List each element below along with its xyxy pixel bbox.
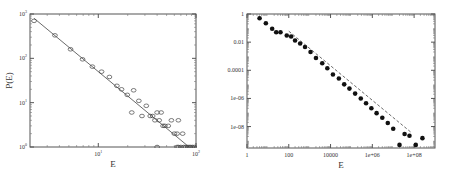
x-axis-label: E [110,159,116,169]
data-point [314,56,319,61]
y-tick-label: 1 [241,11,244,17]
data-point [264,21,269,26]
x-tick-label: 1e+06 [365,152,380,158]
x-axis-label: E [338,160,344,170]
data-point [380,116,385,121]
data-point [257,16,262,21]
y-tick-label: 102 [19,53,27,61]
data-point [397,143,402,148]
data-point [278,30,283,35]
data-point [337,76,342,81]
data-point [169,119,174,123]
x-tick-label: 100 [284,152,293,158]
data-point [347,86,352,91]
data-point [136,99,141,103]
data-point [166,124,171,128]
x-tick-label: 102 [192,149,200,157]
data-point [385,121,390,126]
data-point [420,136,425,141]
y-tick-label: 103 [19,9,27,17]
data-point [320,61,325,66]
y-tick-label: 1e-06 [230,95,244,101]
data-point [407,134,412,139]
minor-ticks [30,14,196,147]
data-point [270,26,275,31]
data-point [131,89,136,93]
data-point [342,82,347,87]
x-tick-label: 101 [94,149,102,157]
data-point [413,143,418,148]
data-point [364,101,369,106]
x-tick-label: 10000 [323,152,338,158]
plot-frame [30,14,196,147]
y-tick-label: 0.01 [234,39,245,45]
x-tick-label: 1 [246,152,249,158]
y-tick-label: 101 [19,98,27,106]
right-chart-plot: 1100100001e+061e+0810.010.00011e-061e-08… [225,0,450,173]
data-points [32,19,197,149]
left-chart: 101102100101102103EP(E) [0,0,225,173]
left-chart-plot: 101102100101102103EP(E) [0,0,225,173]
y-axis-label: P(E) [4,72,14,89]
data-point [144,104,149,108]
data-point [353,91,358,96]
data-point [176,119,181,123]
data-point [107,75,112,79]
data-point [129,111,134,115]
data-point [369,106,374,111]
data-point [140,114,145,118]
fit-line [34,18,189,147]
x-tick-label: 1e+08 [407,152,422,158]
y-tick-label: 1e-08 [230,124,244,130]
data-point [374,111,379,116]
data-point [274,30,279,35]
right-chart: 1100100001e+061e+0810.010.00011e-061e-08… [225,0,450,173]
data-point [180,132,185,136]
y-tick-label: 100 [19,142,27,150]
data-point [284,33,289,38]
data-point [391,126,396,131]
data-point [402,132,407,137]
data-point [331,72,336,77]
data-point [358,96,363,101]
data-point [303,45,308,50]
data-points [257,16,424,147]
data-point [68,47,73,51]
data-point [293,38,298,43]
data-point [325,66,330,71]
y-tick-label: 0.0001 [228,67,245,73]
